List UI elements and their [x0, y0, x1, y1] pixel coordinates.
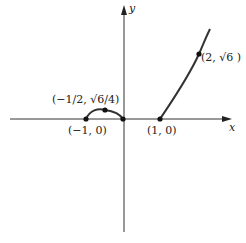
- label-1-0: (1, 0): [147, 124, 177, 137]
- point-origin: [120, 116, 125, 121]
- label-neg1-0: (−1, 0): [68, 124, 107, 137]
- point-1-0: [157, 116, 162, 121]
- right-branch-curve: [160, 29, 210, 119]
- y-axis-arrow-icon: [121, 5, 127, 15]
- point-neghalf: [102, 107, 107, 112]
- point-neg1-0: [83, 116, 88, 121]
- label-2-sqrt6: (2, √6 ): [201, 51, 241, 64]
- graph: y x (−1, 0) (−1/2, √6/4) (1, 0) (2, √6 ): [0, 0, 246, 243]
- x-axis-label: x: [229, 121, 236, 134]
- label-neghalf: (−1/2, √6/4): [52, 93, 119, 106]
- y-axis-label: y: [128, 2, 136, 15]
